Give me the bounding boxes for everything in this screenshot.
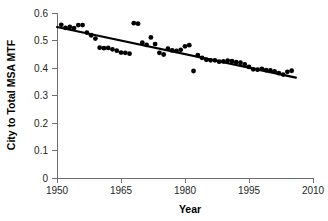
data-point bbox=[285, 69, 290, 74]
y-tick-label: 0.1 bbox=[34, 145, 48, 156]
data-point bbox=[157, 50, 162, 55]
y-axis-tick-labels: 0.6 0.5 0.4 0.3 0.2 0.1 0 bbox=[34, 8, 48, 184]
data-point bbox=[102, 46, 107, 51]
y-tick-label: 0 bbox=[42, 173, 48, 184]
data-point bbox=[148, 35, 153, 40]
data-point bbox=[183, 44, 188, 49]
y-tick-label: 0.6 bbox=[34, 8, 48, 19]
x-axis-ticks bbox=[57, 178, 313, 183]
chart-figure: 0.6 0.5 0.4 0.3 0.2 0.1 0 1950 1965 1980… bbox=[0, 0, 328, 221]
data-point bbox=[114, 48, 119, 53]
data-point bbox=[119, 50, 124, 55]
x-tick-label: 1950 bbox=[46, 185, 69, 196]
data-point bbox=[153, 42, 158, 47]
data-point bbox=[161, 52, 166, 57]
y-tick-label: 0.4 bbox=[34, 63, 48, 74]
x-axis-tick-labels: 1950 1965 1980 1995 2010 bbox=[46, 185, 325, 196]
y-axis-ticks bbox=[52, 13, 57, 178]
trend-line bbox=[57, 27, 296, 78]
scatter-plot: 0.6 0.5 0.4 0.3 0.2 0.1 0 1950 1965 1980… bbox=[0, 0, 328, 221]
data-point bbox=[178, 47, 183, 52]
data-point bbox=[131, 21, 136, 26]
y-axis-title: City to Total MSA MTF bbox=[5, 39, 17, 150]
x-tick-label: 1980 bbox=[174, 185, 197, 196]
x-tick-label: 1995 bbox=[238, 185, 261, 196]
data-point bbox=[97, 45, 102, 50]
data-point bbox=[289, 68, 294, 73]
y-tick-label: 0.2 bbox=[34, 118, 48, 129]
data-point bbox=[127, 51, 132, 56]
data-point bbox=[110, 47, 115, 52]
data-points-layer bbox=[59, 21, 294, 77]
data-point bbox=[93, 36, 98, 41]
data-point bbox=[76, 23, 81, 28]
x-tick-label: 2010 bbox=[302, 185, 325, 196]
data-point bbox=[80, 23, 85, 28]
data-point bbox=[106, 46, 111, 51]
x-axis-title: Year bbox=[179, 203, 201, 215]
data-point bbox=[123, 50, 128, 55]
data-point bbox=[136, 21, 141, 26]
y-tick-label: 0.5 bbox=[34, 35, 48, 46]
y-tick-label: 0.3 bbox=[34, 90, 48, 101]
data-point bbox=[187, 43, 192, 48]
data-point bbox=[191, 69, 196, 74]
x-tick-label: 1965 bbox=[110, 185, 133, 196]
